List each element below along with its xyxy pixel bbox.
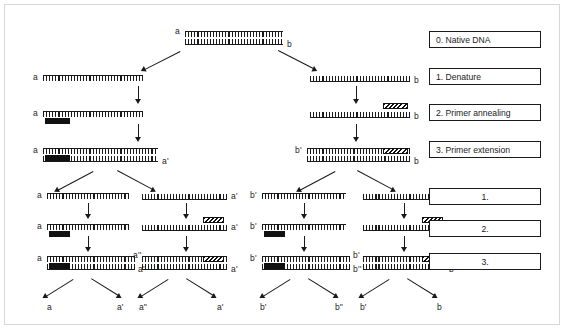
c2-col1-denature-strand — [47, 193, 129, 200]
native-dna-label-b: b — [287, 40, 292, 49]
legend-box-step-1b: 1. — [429, 188, 541, 205]
c2-col1-ext-top-strand — [47, 256, 135, 263]
c1-ext-label-b: b — [414, 157, 419, 166]
native-dna-bottom-strand — [185, 38, 283, 45]
c2-col2-product-arrow-left — [136, 277, 169, 299]
c2-col2-ext-top-label: a'' — [133, 251, 142, 260]
c2-col3-ext-bottom-label: b'' — [353, 265, 362, 274]
c2-col4-arrow-1 — [401, 203, 408, 219]
c1-denature-label-a: a — [33, 73, 38, 82]
c1-ext-label-a: a — [33, 146, 38, 155]
c1-anneal-primer-right — [383, 103, 408, 109]
c2-split-arrow-col4 — [356, 169, 397, 193]
c2-col1-arrow-1 — [85, 203, 92, 219]
legend-box-step-2: 2. Primer annealing — [429, 104, 541, 121]
c2-split-arrow-col2 — [116, 169, 157, 193]
c2-col4-arrow-2 — [401, 236, 408, 252]
c2-col2-product-arrow-right — [185, 277, 218, 299]
c1-anneal-primer-left — [45, 118, 70, 124]
c2-col2-product-1: a'' — [139, 303, 147, 312]
c2-col4-product-2: b — [437, 303, 442, 312]
c2-col3-arrow-2 — [301, 236, 308, 252]
c2-col1-ext-top-label: a — [37, 254, 42, 263]
c2-col3-anneal-strand — [262, 224, 346, 231]
c2-col3-denature-label: b' — [250, 191, 257, 200]
c1-denature-strand-b — [310, 75, 410, 82]
split-arrow-right — [277, 49, 318, 73]
c2-col2-arrow-2 — [183, 236, 190, 252]
c2-col1-product-arrow-right — [90, 277, 123, 299]
c2-col1-product-1: a — [47, 303, 52, 312]
c2-col3-ext-top-label: b' — [250, 254, 257, 263]
c1-anneal-label-a: a — [33, 109, 38, 118]
split-arrow-left — [140, 49, 181, 73]
c2-split-arrow-col3 — [295, 169, 336, 193]
native-dna-top-strand — [185, 31, 283, 38]
c2-col1-anneal-strand — [47, 224, 129, 231]
c1-ext-bottom-strand-b — [307, 155, 410, 162]
legend-label-step-3b: 3. — [430, 258, 540, 267]
c1-anneal-label-b: b — [414, 112, 419, 121]
c1-ext-label-b-prime: b' — [295, 146, 302, 155]
c1-anneal-strand-a — [43, 111, 143, 118]
c2-col3-denature-strand — [262, 193, 346, 200]
c1-anneal-strand-b — [310, 111, 410, 118]
legend-label-step-2b: 2. — [430, 225, 540, 234]
c2-col2-ext-primer — [203, 256, 224, 262]
c1-denature-strand-a — [43, 75, 143, 82]
c1-arrow-denature-to-anneal-left — [135, 86, 142, 104]
legend-label-step-0: 0. Native DNA — [436, 36, 490, 45]
c2-col2-ext-bottom-strand — [142, 263, 227, 270]
c2-split-arrow-col1 — [53, 169, 94, 193]
pcr-diagram: a b a b a b a a' b' b — [5, 5, 561, 326]
c1-denature-label-b: b — [414, 76, 419, 85]
native-dna-label-a: a — [175, 27, 180, 36]
c2-col1-product-arrow-left — [41, 277, 74, 299]
c1-ext-primer-left — [45, 155, 70, 161]
c2-col1-ext-primer — [49, 263, 70, 269]
legend-label-step-3: 3. Primer extension — [436, 146, 510, 155]
c2-col4-product-1: b' — [360, 303, 366, 312]
c2-col2-denature-strand — [142, 193, 227, 200]
legend-box-step-3: 3. Primer extension — [429, 141, 541, 158]
c2-col3-ext-primer — [264, 263, 285, 269]
legend-box-step-2b: 2. — [429, 220, 541, 237]
c1-ext-label-a-prime: a' — [162, 157, 169, 166]
c1-ext-top-strand-a — [43, 148, 158, 155]
c2-col3-product-2: b'' — [335, 303, 343, 312]
c2-col3-product-arrow-left — [258, 277, 291, 299]
c2-col2-denature-label: a' — [231, 192, 238, 201]
c2-col2-product-2: a' — [217, 303, 223, 312]
c2-col4-product-arrow-right — [406, 277, 439, 299]
c2-col2-primer — [203, 217, 224, 223]
c2-col3-product-1: b' — [260, 303, 266, 312]
c2-col1-anneal-label: a — [37, 222, 42, 231]
c1-arrow-anneal-to-ext-right — [353, 124, 360, 142]
c2-col4-ext-top-label: b' — [353, 251, 360, 260]
c1-arrow-denature-to-anneal-right — [353, 86, 360, 104]
legend-box-step-1: 1. Denature — [429, 68, 541, 85]
c2-col2-arrow-1 — [183, 203, 190, 219]
c1-arrow-anneal-to-ext-left — [135, 124, 142, 142]
c2-col3-product-arrow-right — [307, 277, 340, 299]
c2-col1-primer — [49, 231, 70, 237]
legend-box-step-3b: 3. — [429, 253, 541, 270]
legend-label-step-1: 1. Denature — [436, 73, 481, 82]
diagram-frame: a b a b a b a a' b' b — [4, 4, 560, 325]
legend-label-step-2: 2. Primer annealing — [436, 109, 511, 118]
c2-col1-product-2: a' — [117, 303, 123, 312]
c2-col3-primer — [264, 231, 285, 237]
c2-col2-anneal-label: a' — [231, 223, 238, 232]
c2-col1-denature-label: a — [37, 191, 42, 200]
c2-col3-ext-top-strand — [262, 256, 350, 263]
c2-col1-arrow-2 — [85, 236, 92, 252]
c2-col3-arrow-1 — [301, 203, 308, 219]
legend-label-step-1b: 1. — [430, 193, 540, 202]
c2-col3-anneal-label: b' — [250, 222, 257, 231]
c2-col4-product-arrow-left — [357, 277, 390, 299]
c2-col2-ext-bottom-label: a' — [231, 265, 238, 274]
legend-box-step-0: 0. Native DNA — [429, 31, 541, 48]
c1-ext-primer-right — [383, 148, 408, 154]
c2-col2-anneal-strand — [142, 224, 227, 231]
